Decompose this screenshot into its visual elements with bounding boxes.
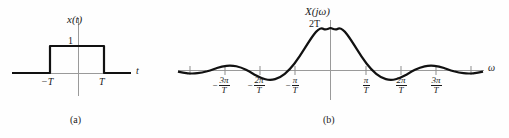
panel-b-peak-label: 2T: [309, 19, 320, 29]
panel-b-ticklabel-minus-2pi-over-T: −2πT: [247, 76, 265, 96]
minus-sign-2: −: [285, 81, 292, 90]
denominator-0: T: [219, 85, 230, 95]
minus-sign-0: −: [212, 81, 219, 90]
panel-b-ticklabel-2pi-over-T: 2πT: [395, 76, 407, 96]
minus-sign-1: −: [247, 81, 254, 90]
denominator-1: T: [254, 85, 265, 95]
panel-b-ticklabel-minus-3pi-over-T: −3πT: [212, 76, 230, 96]
panel-b-ticklabel-3pi-over-T: 3πT: [430, 76, 442, 96]
denominator-3: T: [363, 85, 370, 95]
panel-a-plot: [0, 0, 172, 110]
panel-b-ticklabel-minus-pi-over-T: −πT: [285, 76, 299, 96]
numerator-2: π: [292, 76, 299, 85]
panel-a-time-domain: x(t) 1 −T T t (a): [0, 0, 172, 138]
panel-a-tick-label-T: T: [99, 77, 105, 87]
panel-b-ticklabel-pi-over-T: πT: [362, 76, 370, 96]
numerator-1: 2π: [254, 76, 265, 85]
figure-rect-pulse-and-fourier-transform: x(t) 1 −T T t (a) X(jω) 2T ω: [0, 0, 509, 138]
panel-a-caption: (a): [70, 115, 81, 125]
panel-b-caption: (b): [323, 115, 335, 125]
panel-b-transform-label: X(jω): [305, 6, 330, 17]
panel-a-tick-label-minus-T: −T: [41, 77, 53, 87]
denominator-4: T: [396, 85, 407, 95]
numerator-3: π: [363, 76, 370, 85]
numerator-0: 3π: [219, 76, 230, 85]
rect-pulse-curve: [12, 46, 131, 73]
denominator-5: T: [431, 85, 442, 95]
panel-b-frequency-domain: X(jω) 2T ω −3πT −2πT −πT πT 2πT 3πT (b): [172, 0, 509, 138]
panel-b-axis-label-omega: ω: [488, 63, 495, 73]
numerator-5: 3π: [431, 76, 442, 85]
panel-a-signal-label: x(t): [67, 14, 82, 25]
numerator-4: 2π: [396, 76, 407, 85]
panel-a-amplitude-label: 1: [68, 36, 73, 46]
panel-a-axis-label-t: t: [136, 66, 139, 76]
denominator-2: T: [292, 85, 299, 95]
